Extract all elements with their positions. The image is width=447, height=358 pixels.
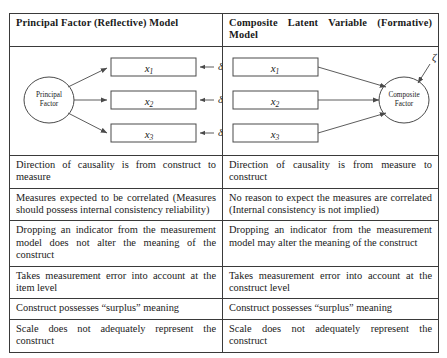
arrow-x1-to-factor xyxy=(318,67,386,87)
cell-correlation-reflective: Measures expected to be correlated (Meas… xyxy=(10,188,223,221)
cell-dropping-indicator-reflective: Dropping an indicator from the measureme… xyxy=(10,221,223,266)
formative-diagram-svg: Composite Factor x1 x2 x3 ζ xyxy=(229,50,439,151)
formative-diagram-cell: Composite Factor x1 x2 x3 ζ xyxy=(223,46,439,155)
error-label-delta3: δ3 xyxy=(218,126,223,140)
indicator-box-x3 xyxy=(111,124,196,142)
cell-surplus-meaning-reflective: Construct possesses “surplus” meaning xyxy=(10,299,223,319)
table-row: Scale does not adequately represent the … xyxy=(10,319,439,352)
cell-dropping-indicator-formative: Dropping an indicator from the measureme… xyxy=(223,221,439,266)
table-row: Direction of causality is from construct… xyxy=(10,155,439,188)
disturbance-label-zeta: ζ xyxy=(432,51,438,64)
arrow-factor-to-x1 xyxy=(68,68,107,87)
cell-causality-reflective: Direction of causality is from construct… xyxy=(10,155,223,188)
reflective-diagram-cell: Principal Factor x1 x2 x3 δ1 δ2 δ3 xyxy=(10,46,223,155)
error-label-delta1: δ1 xyxy=(218,60,223,74)
table-row: Measures expected to be correlated (Meas… xyxy=(10,188,439,221)
cell-scale-representation-reflective: Scale does not adequately represent the … xyxy=(10,319,223,352)
arrow-zeta-to-factor xyxy=(418,64,430,83)
figure-page: Principal Factor (Reflective) Model Comp… xyxy=(0,0,447,358)
reflective-diagram: Principal Factor x1 x2 x3 δ1 δ2 δ3 xyxy=(16,50,216,151)
header-cell-formative: Composite Latent Variable (Formative) Mo… xyxy=(223,14,439,47)
principal-factor-label-line1: Principal xyxy=(36,91,62,99)
table-row: Takes measurement error into account at … xyxy=(10,266,439,299)
diagram-row: Principal Factor x1 x2 x3 δ1 δ2 δ3 xyxy=(10,46,439,155)
header-cell-reflective: Principal Factor (Reflective) Model xyxy=(10,14,223,47)
cell-scale-representation-formative: Scale does not adequately represent the … xyxy=(223,319,439,352)
cell-correlation-formative: No reason to expect the measures are cor… xyxy=(223,188,439,221)
table-row: Construct possesses “surplus” meaning Co… xyxy=(10,299,439,319)
composite-factor-label-line1: Composite xyxy=(388,91,419,99)
cell-measurement-error-formative: Takes measurement error into account at … xyxy=(223,266,439,299)
cell-surplus-meaning-formative: Construct possesses “surplus” meaning xyxy=(223,299,439,319)
comparison-table: Principal Factor (Reflective) Model Comp… xyxy=(9,13,439,353)
reflective-diagram-svg: Principal Factor x1 x2 x3 δ1 δ2 δ3 xyxy=(16,50,223,151)
table-row: Dropping an indicator from the measureme… xyxy=(10,221,439,266)
principal-factor-label-line2: Factor xyxy=(40,100,59,108)
arrow-factor-to-x3 xyxy=(68,113,107,133)
composite-factor-label-line2: Factor xyxy=(395,100,414,108)
indicator-box-x2 xyxy=(111,91,196,109)
indicator-box-x1 xyxy=(111,58,196,76)
cell-measurement-error-reflective: Takes measurement error into account at … xyxy=(10,266,223,299)
error-label-delta2: δ2 xyxy=(218,93,223,107)
arrow-x3-to-factor xyxy=(318,113,386,133)
table-header-row: Principal Factor (Reflective) Model Comp… xyxy=(10,14,439,47)
formative-diagram: Composite Factor x1 x2 x3 ζ xyxy=(229,50,432,151)
cell-causality-formative: Direction of causality is from measure t… xyxy=(223,155,439,188)
